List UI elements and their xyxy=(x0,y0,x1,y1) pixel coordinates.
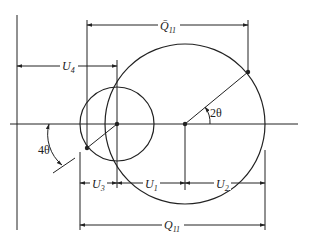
angle-ref-line xyxy=(53,158,75,173)
mohr-circle-diagram: Q̄11 U4 U3 U1 U2 Q11 2θ 4θ xyxy=(0,0,309,242)
angle-4theta-label: 4θ xyxy=(38,143,50,157)
angle-2theta-label: 2θ xyxy=(210,106,222,120)
angle-4theta-arc xyxy=(48,124,62,165)
small-circle-radius xyxy=(87,124,117,148)
